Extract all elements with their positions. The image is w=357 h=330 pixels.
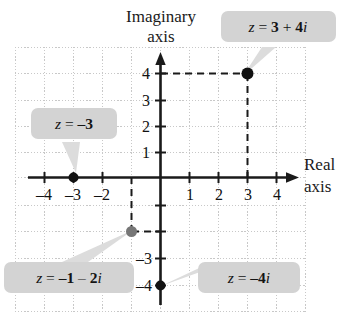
callout-seg: i [266, 269, 270, 286]
x-tick-label: –4 [35, 186, 52, 203]
x-tick-label: 3 [244, 186, 252, 203]
complex-plane-svg: –4 –3 –2 1 2 3 4 4 3 2 1 –3 –4 Imaginary [0, 0, 357, 330]
y-tick-label: 1 [142, 144, 150, 161]
x-tick-label: 4 [273, 186, 281, 203]
data-point-0-neg4 [156, 281, 166, 291]
callout-z-minus-3[interactable]: z = –3 [31, 108, 117, 139]
real-axis-title-line2: axis [304, 177, 331, 196]
real-axis-title-line1: Real [304, 155, 335, 174]
x-tick-label: 1 [186, 186, 194, 203]
callout-seg: –1 [58, 269, 75, 286]
imaginary-axis-title-line1: Imaginary [126, 7, 196, 26]
imaginary-axis-title-line2: axis [147, 27, 174, 46]
callout-seg: i [97, 269, 101, 286]
y-tick-label: –3 [135, 250, 152, 267]
callout-label: z = –4i [227, 269, 270, 286]
callout-seg: z [54, 115, 61, 132]
x-tick-label: 2 [215, 186, 223, 203]
callout-seg: z [248, 18, 255, 35]
callout-z-minus-4i[interactable]: z = –4i [198, 262, 300, 293]
callout-seg: = [255, 18, 272, 35]
callout-label: z = –1 – 2i [35, 269, 102, 286]
x-tick-label: –2 [93, 186, 110, 203]
callout-seg: –4 [249, 269, 266, 286]
callout-label: z = 3 + 4i [248, 18, 308, 35]
callout-seg: = [61, 115, 78, 132]
y-tick-label: 2 [142, 118, 150, 135]
y-tick-label: –4 [135, 277, 152, 294]
data-point-neg3-0 [69, 173, 79, 183]
callout-label: z = –3 [54, 115, 93, 132]
x-tick-label: –3 [64, 186, 81, 203]
callout-seg: = [42, 269, 59, 286]
callout-z-3-plus-4i[interactable]: z = 3 + 4i [221, 11, 336, 42]
y-tick-label: 3 [142, 92, 150, 109]
data-point-neg1-neg2 [126, 226, 137, 237]
callout-seg: – [74, 269, 90, 286]
callout-seg: = [234, 269, 251, 286]
complex-plane-figure: –4 –3 –2 1 2 3 4 4 3 2 1 –3 –4 Imaginary [0, 0, 357, 330]
callout-seg: i [303, 18, 307, 35]
callout-seg: –3 [77, 115, 94, 132]
y-tick-label: 4 [142, 65, 150, 82]
callout-z-minus-1-minus-2i[interactable]: z = –1 – 2i [4, 262, 134, 293]
callout-seg: z [35, 269, 42, 286]
data-point-3-4 [242, 68, 254, 80]
callout-seg: + [279, 18, 296, 35]
callout-seg: z [227, 269, 234, 286]
